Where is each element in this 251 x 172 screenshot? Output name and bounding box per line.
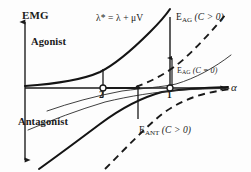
tick-label-2: 2 (99, 90, 104, 100)
y-axis-label: EMG (22, 10, 49, 21)
tick-label-1: 1 (167, 90, 172, 100)
lambda-relation-label: λ* = λ + μV (96, 14, 143, 24)
eag-c-positive-label: EAG (C > 0) (176, 13, 224, 24)
figure-canvas (0, 0, 251, 172)
eag-c-zero-subscript: AG (182, 69, 191, 75)
eag-c-zero-label: EAG (C = 0) (177, 67, 217, 76)
eag-c-zero-condition: (C = 0) (191, 66, 218, 75)
eant-c-positive-condition: (C > 0) (159, 125, 191, 135)
curve-eant-c-positive (39, 87, 228, 169)
emg-alpha-figure: EMG Agonist Antagonist α λ* = λ + μV EAG… (0, 0, 251, 172)
curve-eag-c-zero (47, 55, 231, 111)
x-axis-label: α (231, 82, 237, 93)
eant-c-positive-subscript: ANT (145, 129, 159, 137)
eant-c-positive-label: EANT (C > 0) (139, 126, 191, 137)
eag-c-positive-condition: (C > 0) (192, 12, 224, 22)
antagonist-region-label: Antagonist (18, 117, 68, 128)
eag-c-positive-subscript: AG (182, 16, 192, 24)
agonist-region-label: Agonist (31, 37, 66, 48)
